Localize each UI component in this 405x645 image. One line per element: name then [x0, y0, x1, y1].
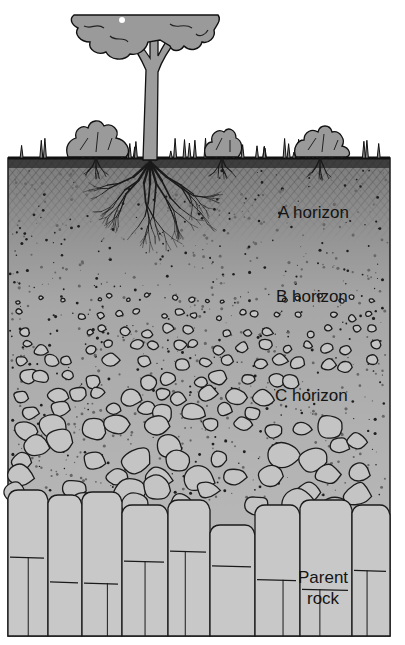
- speckle: [157, 284, 159, 286]
- speckle: [216, 278, 217, 279]
- speckle: [359, 384, 362, 387]
- pebble: [116, 310, 123, 316]
- speckle: [39, 466, 40, 467]
- speckle: [226, 322, 227, 323]
- speckle: [374, 418, 377, 421]
- pebble: [141, 375, 157, 390]
- speckle: [375, 464, 377, 466]
- speckle: [31, 184, 33, 186]
- speckle: [373, 254, 376, 257]
- speckle: [11, 313, 13, 315]
- speckle: [62, 223, 63, 224]
- speckle: [342, 321, 343, 322]
- speckle: [375, 220, 377, 222]
- speckle: [86, 215, 88, 217]
- grass-blade: [377, 144, 380, 159]
- speckle: [125, 273, 126, 274]
- speckle: [367, 430, 369, 432]
- speckle: [218, 477, 221, 480]
- speckle: [140, 228, 142, 230]
- speckle: [272, 240, 274, 242]
- speckle: [96, 337, 99, 340]
- speckle: [75, 406, 76, 407]
- speckle: [311, 349, 314, 352]
- speckle: [11, 453, 14, 456]
- speckle: [375, 373, 377, 375]
- speckle: [381, 307, 384, 310]
- speckle: [192, 172, 193, 173]
- grass-blade: [365, 140, 368, 158]
- speckle: [20, 242, 23, 245]
- speckle: [135, 232, 136, 233]
- speckle: [294, 281, 297, 284]
- speckle: [174, 361, 175, 362]
- speckle: [374, 288, 375, 289]
- speckle: [323, 228, 325, 230]
- speckle: [85, 343, 87, 345]
- speckle: [45, 486, 48, 489]
- speckle: [120, 435, 122, 437]
- speckle: [308, 177, 310, 179]
- speckle: [80, 477, 83, 480]
- speckle: [267, 350, 270, 353]
- speckle: [349, 338, 351, 340]
- speckle: [175, 383, 177, 385]
- speckle: [171, 265, 173, 267]
- speckle: [59, 173, 62, 176]
- speckle: [367, 177, 369, 179]
- speckle: [356, 290, 357, 291]
- speckle: [298, 177, 300, 179]
- speckle: [345, 323, 347, 325]
- speckle: [209, 257, 211, 259]
- pebble: [295, 312, 301, 317]
- speckle: [89, 309, 91, 311]
- speckle: [215, 496, 217, 498]
- speckle: [18, 286, 21, 289]
- rock-column: [82, 492, 122, 636]
- speckle: [257, 336, 260, 339]
- speckle: [312, 361, 315, 364]
- speckle: [127, 386, 128, 387]
- speckle: [11, 336, 13, 338]
- shrub-middle: [205, 129, 242, 157]
- speckle: [34, 188, 36, 190]
- speckle: [229, 427, 230, 428]
- speckle: [382, 374, 383, 375]
- speckle: [331, 180, 332, 181]
- speckle: [189, 492, 192, 495]
- speckle: [259, 430, 262, 433]
- speckle: [290, 226, 293, 229]
- speckle: [24, 182, 27, 185]
- speckle: [9, 330, 11, 332]
- speckle: [134, 289, 137, 292]
- speckle: [359, 315, 362, 318]
- speckle: [178, 436, 180, 438]
- label-parent-rock-line2: rock: [298, 588, 348, 609]
- speckle: [327, 484, 329, 486]
- speckle: [85, 478, 87, 480]
- speckle: [381, 384, 383, 386]
- speckle: [97, 369, 100, 372]
- speckle: [9, 273, 12, 276]
- speckle: [205, 329, 208, 332]
- speckle: [135, 330, 138, 333]
- speckle: [133, 338, 134, 339]
- speckle: [77, 225, 80, 228]
- speckle: [369, 211, 370, 212]
- speckle: [353, 418, 354, 419]
- pebble: [97, 312, 104, 318]
- speckle: [48, 284, 49, 285]
- speckle: [255, 298, 258, 301]
- speckle: [275, 334, 276, 335]
- speckle: [123, 296, 126, 299]
- speckle: [248, 271, 251, 274]
- speckle: [243, 450, 246, 453]
- speckle: [203, 234, 206, 237]
- rock-column: [210, 525, 255, 636]
- speckle: [322, 264, 324, 266]
- speckle: [112, 486, 114, 488]
- pebble: [371, 340, 381, 349]
- speckle: [189, 205, 192, 208]
- speckle: [336, 267, 339, 270]
- pebble: [61, 298, 65, 302]
